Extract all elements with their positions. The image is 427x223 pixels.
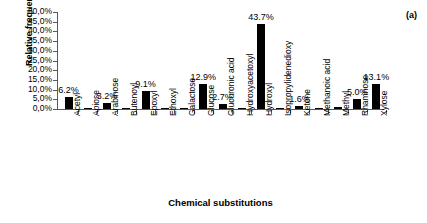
x-axis-tick-label: Methanoic acid (323, 59, 332, 116)
y-axis-tick-mark (53, 109, 57, 110)
y-axis-tick-mark (53, 99, 57, 100)
x-axis-tick-label: Ethoxyl (169, 88, 178, 116)
x-axis-title: Chemical substitutions (57, 197, 384, 208)
bar-value-label: 43.7% (241, 12, 281, 22)
x-axis-tick-label: Hydroxyl (265, 83, 274, 116)
bar-chart-figure: (a) Relative frequencies (%) 50,0%45,0%4… (0, 0, 427, 223)
y-axis-tick-mark (53, 41, 57, 42)
x-axis-tick-label: Ketone (303, 89, 312, 116)
x-axis-tick-label: Glucuronic acid (227, 57, 236, 116)
y-axis-tick-mark (53, 61, 57, 62)
x-axis-tick-label: Hydroxyacetoxyl (246, 54, 255, 116)
x-axis-tick-label: Xylose (380, 90, 389, 116)
x-axis-tick-label: Isopropylidenedioxy (284, 41, 293, 116)
x-axis-line (57, 109, 384, 110)
y-axis-line (57, 12, 58, 110)
x-axis-tick-label: Galactose (188, 78, 197, 116)
y-axis-tick-mark (53, 80, 57, 81)
x-axis-tick-label: Butenoyl (130, 83, 139, 116)
y-axis-tick-mark (53, 70, 57, 71)
x-axis-tick-label: Acetyl (73, 93, 82, 116)
panel-label: (a) (406, 10, 417, 20)
x-axis-tick-label: Epoxyl (150, 90, 159, 116)
x-axis-tick-label: Rhamnose (361, 75, 370, 116)
x-axis-tick-label: Apiose (92, 90, 101, 116)
y-axis-tick-mark (53, 22, 57, 23)
y-axis-tick-mark (53, 31, 57, 32)
bar-value-label: 6.2% (49, 85, 89, 95)
x-axis-tick-label: Glucose (207, 85, 216, 116)
x-axis-tick-label: Arabinose (111, 78, 120, 116)
x-axis-tick-label: Methyl (342, 91, 351, 116)
y-axis-tick-label: 0,0% (33, 103, 52, 114)
y-axis-tick-mark (53, 51, 57, 52)
plot-area: 50,0%45,0%40,0%35,0%30,0%25,0%20,0%15,0%… (57, 12, 384, 110)
y-axis-tick-mark (53, 12, 57, 13)
